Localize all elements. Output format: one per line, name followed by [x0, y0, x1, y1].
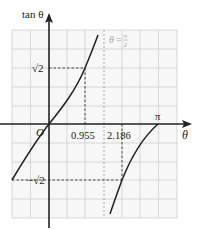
svg-text:π: π — [124, 32, 128, 40]
tan-theta-chart: tan θ θ O √2 −√2 0.955 2.186 π θ = π 2 — [0, 0, 197, 230]
y-tick-neg-sqrt2: −√2 — [27, 174, 45, 186]
svg-text:=: = — [116, 34, 122, 45]
x-tick-pi: π — [155, 111, 161, 122]
x-axis-label: θ — [182, 128, 188, 142]
svg-text:2: 2 — [124, 41, 128, 49]
origin-label: O — [36, 126, 44, 138]
x-tick-0955: 0.955 — [71, 130, 95, 141]
x-tick-2186: 2.186 — [107, 130, 131, 141]
y-axis-label: tan θ — [22, 8, 43, 20]
svg-text:θ: θ — [109, 34, 114, 45]
y-tick-sqrt2: √2 — [32, 62, 44, 74]
